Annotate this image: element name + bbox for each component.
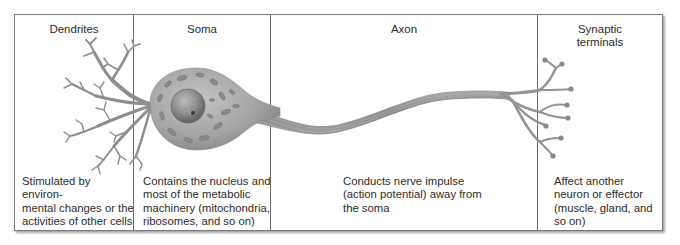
neuron-diagram-frame: Dendrites Stimulated by environ- mental …: [14, 14, 663, 231]
title-axon: Axon: [271, 23, 537, 36]
column-synaptic-terminals: Synaptic terminals Affect another neuron…: [538, 15, 662, 230]
column-soma: Soma Contains the nucleus and most of th…: [134, 15, 270, 230]
description-soma: Contains the nucleus and most of the met…: [143, 175, 273, 229]
title-soma: Soma: [134, 23, 270, 36]
column-axon: Axon Conducts nerve impulse (action pote…: [271, 15, 537, 230]
description-dendrites: Stimulated by environ- mental changes or…: [22, 175, 134, 229]
title-dendrites: Dendrites: [15, 23, 133, 36]
column-dendrites: Dendrites Stimulated by environ- mental …: [15, 15, 133, 230]
description-synaptic-terminals: Affect another neuron or effector (muscl…: [554, 175, 664, 229]
title-synaptic-terminals: Synaptic terminals: [538, 23, 662, 49]
description-axon: Conducts nerve impulse (action potential…: [343, 175, 523, 215]
